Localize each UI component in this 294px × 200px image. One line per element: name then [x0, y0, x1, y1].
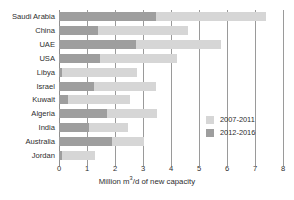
bar-row[interactable]: [59, 68, 137, 77]
bar-row[interactable]: [59, 123, 128, 132]
bar-segment-2007-2011: [62, 68, 137, 77]
legend-item[interactable]: 2012-2016: [206, 126, 286, 139]
bar-row[interactable]: [59, 151, 95, 160]
category-label: Algeria: [0, 109, 55, 118]
x-axis-tick-labels: 012345678: [59, 164, 283, 175]
category-label: Saudi Arabia: [0, 12, 55, 21]
x-tick-label: 2: [113, 164, 117, 174]
bar-row[interactable]: [59, 12, 266, 21]
gridline-6: [227, 10, 228, 166]
x-tick-label: 7: [253, 164, 257, 174]
bar-segment-2012-2016: [59, 12, 156, 21]
category-label: Libya: [0, 68, 55, 77]
gridline-5: [199, 10, 200, 166]
y-axis-category-labels: Saudi ArabiaChinaUAEUSALibyaIsraelKuwait…: [0, 10, 55, 162]
plot-area: [59, 10, 283, 162]
x-tick-label: 3: [141, 164, 145, 174]
category-label: UAE: [0, 40, 55, 49]
bar-segment-2012-2016: [59, 95, 68, 104]
gridline-8: [283, 10, 284, 166]
x-axis-title: Million m3/d of new capacity: [0, 177, 294, 186]
x-tick-label: 4: [169, 164, 173, 174]
bar-segment-2007-2011: [94, 82, 156, 91]
legend-swatch: [206, 129, 214, 137]
bar-row[interactable]: [59, 82, 156, 91]
category-label: India: [0, 123, 55, 132]
bar-segment-2007-2011: [62, 151, 96, 160]
category-label: Australia: [0, 137, 55, 146]
bar-segment-2007-2011: [107, 109, 157, 118]
gridline-7: [255, 10, 256, 166]
x-tick-label: 5: [197, 164, 201, 174]
bar-row[interactable]: [59, 54, 177, 63]
bar-row[interactable]: [59, 109, 157, 118]
legend-label: 2012-2016: [220, 128, 255, 137]
x-tick-label: 0: [57, 164, 61, 174]
chart-legend: 2007-20112012-2016: [206, 113, 286, 139]
bar-row[interactable]: [59, 40, 221, 49]
bar-segment-2007-2011: [98, 26, 188, 35]
category-label: China: [0, 26, 55, 35]
bar-segment-2007-2011: [68, 95, 130, 104]
legend-label: 2007-2011: [220, 115, 255, 124]
bar-chart: Saudi ArabiaChinaUAEUSALibyaIsraelKuwait…: [0, 0, 294, 200]
bar-segment-2012-2016: [59, 26, 98, 35]
legend-swatch: [206, 116, 214, 124]
bar-segment-2012-2016: [59, 82, 94, 91]
bar-segment-2007-2011: [89, 123, 127, 132]
category-label: Kuwait: [0, 95, 55, 104]
bar-segment-2007-2011: [112, 137, 144, 146]
bar-segment-2012-2016: [59, 137, 112, 146]
category-label: USA: [0, 54, 55, 63]
bar-row[interactable]: [59, 95, 130, 104]
category-label: Israel: [0, 82, 55, 91]
bar-row[interactable]: [59, 26, 188, 35]
bar-segment-2012-2016: [59, 123, 89, 132]
bar-segment-2012-2016: [59, 40, 136, 49]
legend-item[interactable]: 2007-2011: [206, 113, 286, 126]
bar-row[interactable]: [59, 137, 144, 146]
x-axis-title-superscript: 3: [130, 175, 133, 181]
bar-segment-2012-2016: [59, 54, 100, 63]
x-tick-label: 8: [281, 164, 285, 174]
category-label: Jordan: [0, 151, 55, 160]
x-tick-label: 6: [225, 164, 229, 174]
bar-segment-2007-2011: [100, 54, 176, 63]
bar-segment-2007-2011: [156, 12, 267, 21]
x-tick-label: 1: [85, 164, 89, 174]
bar-segment-2007-2011: [136, 40, 221, 49]
bar-segment-2012-2016: [59, 109, 107, 118]
